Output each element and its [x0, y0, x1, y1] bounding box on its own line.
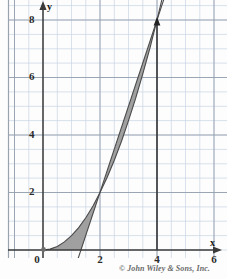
graph-figure: 8 6 4 2 0 2 4 6 y x © John Wiley & Sons,… — [0, 0, 227, 279]
y-tick-label-6: 6 — [29, 71, 35, 82]
copyright-caption: © John Wiley & Sons, Inc. — [119, 264, 210, 273]
y-tick-label-8: 8 — [29, 14, 35, 25]
x-tick-label-2: 2 — [97, 254, 103, 265]
y-tick-label-2: 2 — [29, 186, 35, 197]
x-tick-label-6: 6 — [211, 254, 217, 265]
plot-background — [8, 0, 227, 258]
x-tick-label-0: 0 — [34, 254, 40, 265]
y-tick-label-4: 4 — [29, 129, 35, 140]
origin-point-marker — [41, 247, 46, 252]
x-axis-label: x — [210, 237, 215, 248]
y-axis-label: y — [47, 1, 52, 12]
